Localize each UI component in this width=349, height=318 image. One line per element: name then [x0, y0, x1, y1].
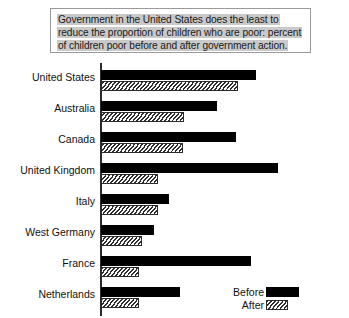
chart-caption-box: Government in the United States does the… [50, 8, 311, 53]
bar-after [101, 81, 238, 91]
category-label: France [0, 257, 95, 269]
chart-row: United Kingdom [0, 163, 349, 187]
category-label: Canada [0, 133, 95, 145]
bar-before [101, 287, 180, 297]
category-label: United Kingdom [0, 164, 95, 176]
chart-row: United States [0, 70, 349, 94]
category-label: United States [0, 71, 95, 83]
legend-label-after: After [212, 299, 264, 311]
legend-swatch-before [266, 287, 299, 297]
bar-after [101, 236, 142, 246]
chart-legend: Before After [212, 287, 312, 313]
bar-before [101, 256, 251, 266]
bar-after [101, 112, 184, 122]
bar-before [101, 70, 256, 80]
bar-before [101, 163, 278, 173]
bar-after [101, 174, 158, 184]
category-label: Netherlands [0, 288, 95, 300]
chart-plot-area: United States Australia Canada United Ki… [0, 60, 349, 318]
bar-after [101, 205, 158, 215]
bar-after [101, 298, 139, 308]
chart-row: Australia [0, 101, 349, 125]
bar-before [101, 225, 154, 235]
chart-row: Italy [0, 194, 349, 218]
bar-before [101, 101, 217, 111]
bar-before [101, 132, 236, 142]
legend-item-before: Before [212, 287, 312, 298]
category-label: Italy [0, 195, 95, 207]
chart-caption-highlight: Government in the United States does the… [57, 14, 302, 51]
bar-after [101, 267, 139, 277]
chart-row: Canada [0, 132, 349, 156]
category-label: Australia [0, 102, 95, 114]
chart-row: West Germany [0, 225, 349, 249]
legend-item-after: After [212, 300, 312, 311]
chart-caption-text: Government in the United States does the… [57, 13, 305, 53]
category-label: West Germany [0, 226, 95, 238]
bar-after [101, 143, 183, 153]
chart-row: France [0, 256, 349, 280]
legend-swatch-after [266, 300, 288, 310]
legend-label-before: Before [212, 286, 264, 298]
bar-before [101, 194, 169, 204]
